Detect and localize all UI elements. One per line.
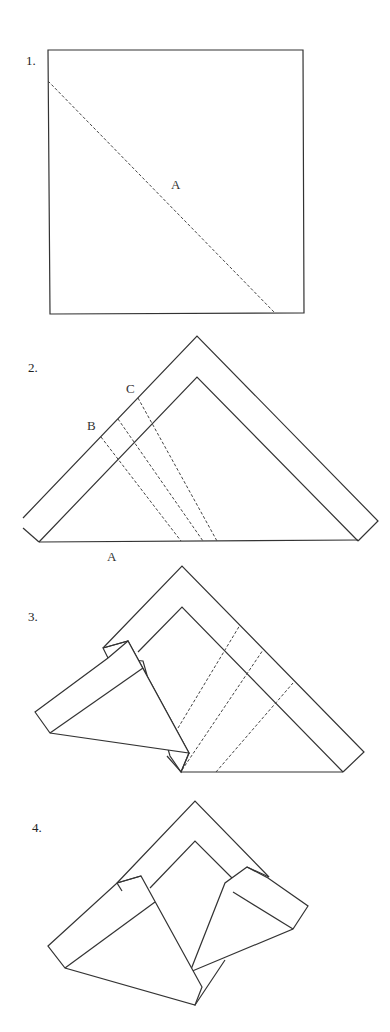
left-band-end bbox=[23, 528, 39, 542]
paper-square bbox=[48, 50, 304, 314]
step-3-diagram bbox=[35, 566, 364, 772]
fold-line-1 bbox=[178, 625, 240, 728]
fold-line-3 bbox=[216, 683, 293, 772]
step-4-diagram bbox=[48, 801, 308, 1005]
fold-line-2 bbox=[182, 650, 263, 770]
fold-line-c bbox=[138, 398, 217, 541]
step-2-diagram bbox=[23, 336, 378, 542]
inner-triangle-edge bbox=[150, 841, 237, 888]
fold-line-a bbox=[48, 81, 274, 312]
folded-flap bbox=[35, 641, 189, 753]
fold-line-b-2 bbox=[118, 419, 203, 541]
base-fold-edge bbox=[39, 540, 358, 542]
inner-triangle-edge bbox=[39, 377, 358, 542]
step-1-diagram bbox=[48, 50, 304, 314]
left-folded-flap bbox=[48, 876, 202, 1005]
outer-band-edge bbox=[23, 336, 378, 541]
diagram-canvas bbox=[0, 0, 390, 1032]
right-folded-flap bbox=[190, 867, 308, 972]
